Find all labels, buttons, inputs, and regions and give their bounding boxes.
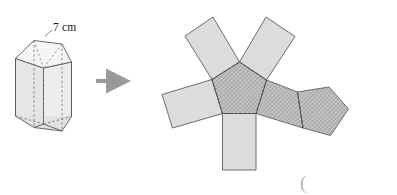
dimension-leader (45, 30, 52, 36)
geometry-figure-canvas: 7 cm (0, 0, 397, 195)
net-flap-bottom (223, 114, 257, 171)
net-pentagon-second-overlay (298, 87, 349, 136)
pentagonal-prism-net (162, 17, 349, 170)
prism-face-left (16, 59, 44, 125)
net-flap-left (162, 80, 223, 129)
figure-svg: 7 cm (0, 0, 397, 195)
edge-length-label: 7 cm (53, 21, 76, 33)
prism-face-front (44, 62, 72, 124)
stray-paren-mark: ( (300, 172, 306, 194)
pentagonal-prism: 7 cm (16, 21, 77, 131)
